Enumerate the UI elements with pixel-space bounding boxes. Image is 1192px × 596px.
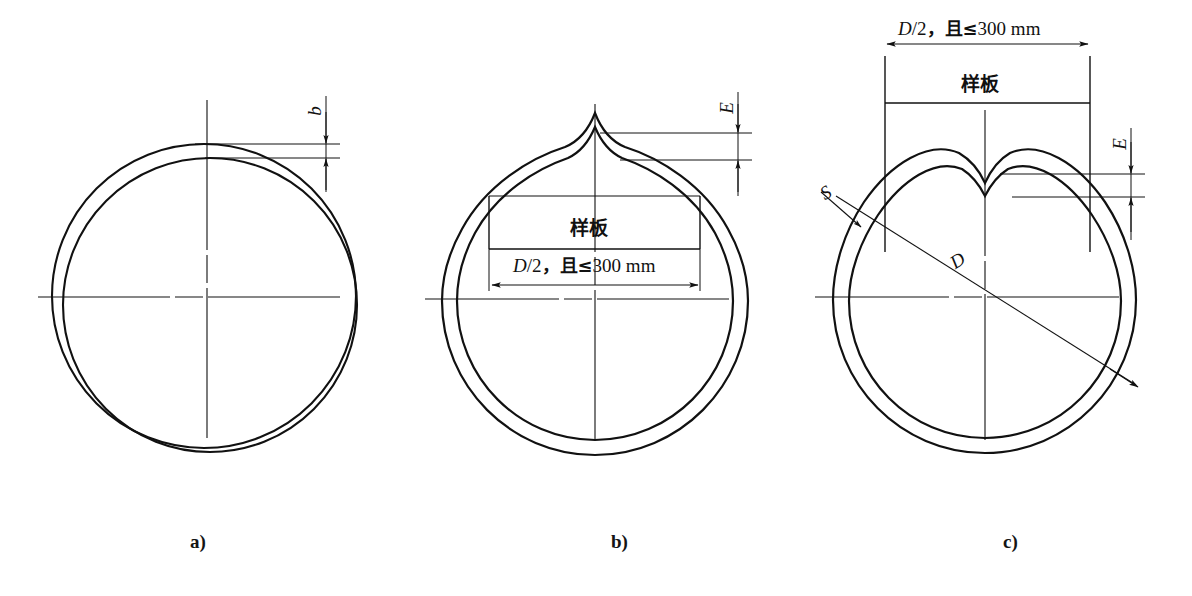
template-label-panel-b: 样板 bbox=[570, 213, 608, 240]
dimension-label-b: b bbox=[304, 102, 326, 120]
chord-comma-panel-c: ， bbox=[927, 18, 945, 39]
chord-slash-panel-b: /2 bbox=[527, 255, 542, 276]
drawing-canvas bbox=[0, 0, 1192, 596]
template-label-panel-c: 样板 bbox=[961, 69, 999, 96]
chord-symbol-D-panel-c: D bbox=[898, 18, 912, 39]
panel-b-graphics bbox=[425, 92, 770, 492]
chord-value-panel-c: 300 mm bbox=[978, 18, 1041, 39]
chord-dimension-text-panel-c: D/2，且≤300 mm bbox=[898, 14, 1040, 40]
caption-panel-a: a) bbox=[190, 531, 206, 553]
chord-symbol-D-panel-b: D bbox=[513, 255, 527, 276]
chord-value-panel-b: 300 mm bbox=[593, 255, 656, 276]
panel-a-inner-circle bbox=[63, 158, 357, 452]
technical-drawing-figure: b E 样板 D/2，且≤300 mm D/2，且≤300 mm 样板 E D … bbox=[0, 0, 1192, 596]
chord-dimension-text-panel-b: D/2，且≤300 mm bbox=[513, 251, 655, 277]
caption-panel-c: c) bbox=[1003, 531, 1018, 553]
panel-c-diameter-line-D bbox=[836, 196, 1136, 385]
chord-slash-panel-c: /2 bbox=[912, 18, 927, 39]
panel-a-outer-circle bbox=[52, 144, 356, 448]
chord-cjk-qie-panel-b: 且 bbox=[560, 255, 578, 276]
chord-cjk-qie-panel-c: 且 bbox=[945, 18, 963, 39]
caption-panel-b: b) bbox=[611, 531, 628, 553]
panel-a-graphics bbox=[38, 96, 380, 490]
dimension-label-E-panel-b: E bbox=[716, 99, 738, 117]
chord-operator-panel-b: ≤ bbox=[578, 255, 593, 276]
chord-comma-panel-b: ， bbox=[542, 255, 560, 276]
panel-c-graphics bbox=[815, 44, 1160, 490]
dimension-label-E-panel-c: E bbox=[1109, 135, 1131, 153]
chord-operator-panel-c: ≤ bbox=[963, 18, 978, 39]
